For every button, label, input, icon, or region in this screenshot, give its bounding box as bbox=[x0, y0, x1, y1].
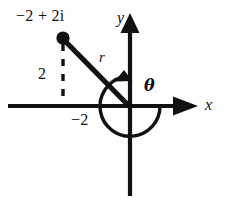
figure-canvas bbox=[0, 0, 226, 201]
angle-label: θ bbox=[144, 78, 155, 94]
y-axis-label: y bbox=[117, 10, 124, 26]
radius-segment bbox=[64, 40, 129, 106]
x-axis-label: x bbox=[205, 97, 212, 113]
point-marker bbox=[56, 31, 69, 44]
complex-plane-figure: −2 + 2i y x r θ 2 −2 bbox=[0, 0, 226, 201]
radius-label: r bbox=[99, 50, 105, 65]
x-axis-arrowhead bbox=[173, 97, 198, 116]
real-part-label: −2 bbox=[71, 112, 89, 128]
imaginary-leg-label: 2 bbox=[38, 66, 46, 82]
point-label: −2 + 2i bbox=[16, 8, 65, 24]
